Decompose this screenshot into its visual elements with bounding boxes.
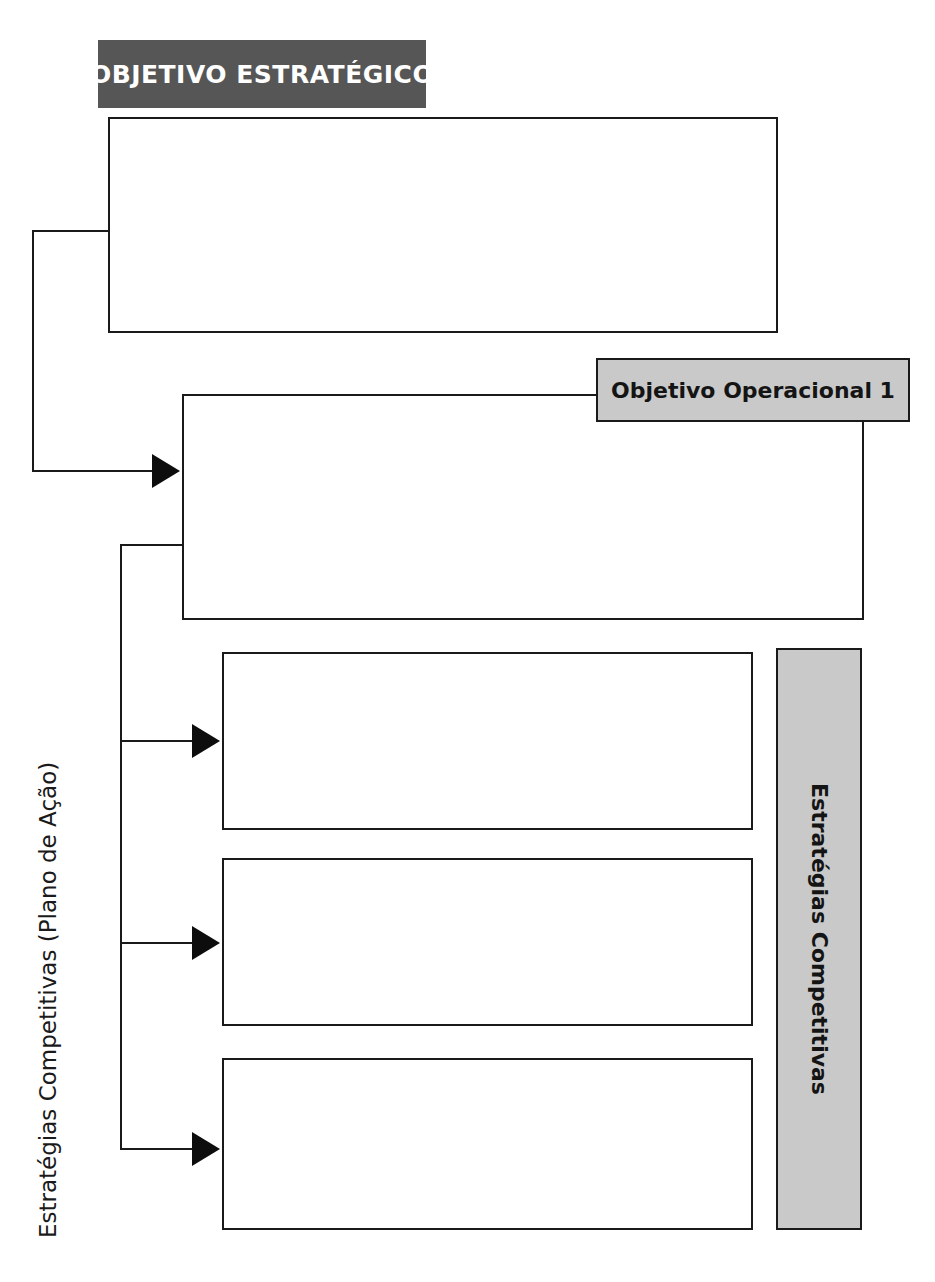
strategic-objective-header: OBJETIVO ESTRATÉGICO — [98, 40, 426, 108]
competitive-strategies-sidebar: Estratégias Competitivas — [776, 648, 862, 1230]
connector-4-segment-horizontal — [120, 1148, 194, 1150]
connector-1-segment-vertical — [32, 230, 34, 472]
connector-3-arrowhead-icon — [192, 926, 220, 960]
strategy-box-1 — [222, 652, 753, 830]
action-plan-caption: Estratégias Competitivas (Plano de Ação) — [26, 618, 70, 1238]
operational-objective-tag: Objetivo Operacional 1 — [596, 358, 910, 422]
action-plan-caption-label: Estratégias Competitivas (Plano de Ação) — [35, 762, 61, 1238]
strategic-objective-header-label: OBJETIVO ESTRATÉGICO — [90, 60, 434, 89]
connector-4-arrowhead-icon — [192, 1132, 220, 1166]
operational-objective-tag-label: Objetivo Operacional 1 — [611, 378, 895, 403]
connector-trunk-entry — [120, 544, 184, 546]
diagram-canvas: OBJETIVO ESTRATÉGICO Objetivo Operaciona… — [0, 0, 935, 1282]
competitive-strategies-sidebar-label: Estratégias Competitivas — [807, 783, 832, 1095]
connector-2-arrowhead-icon — [192, 724, 220, 758]
connector-1-segment-horizontal-top — [32, 230, 110, 232]
operational-objective-box — [182, 394, 864, 620]
connector-1-segment-horizontal-bottom — [32, 470, 154, 472]
strategy-box-3 — [222, 1058, 753, 1230]
connector-3-segment-horizontal — [120, 942, 194, 944]
connector-1-arrowhead-icon — [152, 454, 180, 488]
strategic-objective-box — [108, 117, 778, 333]
connector-2-segment-horizontal — [120, 740, 194, 742]
connector-trunk-vertical — [120, 544, 122, 1150]
strategy-box-2 — [222, 858, 753, 1026]
